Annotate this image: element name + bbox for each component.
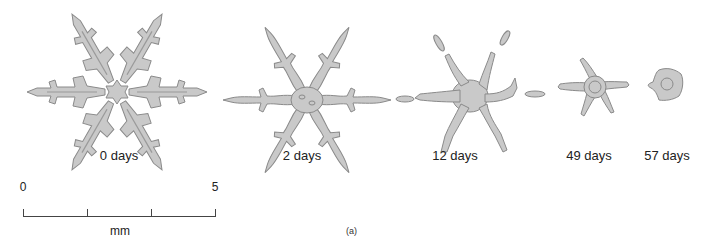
- scale-end-label: 5: [212, 180, 219, 194]
- crystal-57-days: [645, 66, 685, 102]
- rounding-snowflake-icon: [222, 40, 392, 160]
- snow-crystal-metamorphism-figure: 0 days 2 days: [0, 0, 709, 245]
- crystal-12-days: [395, 25, 555, 155]
- rounded-grain-arms-icon: [395, 25, 555, 155]
- crystal-49-days: [556, 56, 631, 118]
- crystal-2-days: [222, 40, 392, 160]
- scale-unit-label: mm: [110, 224, 130, 238]
- scale-line: [23, 216, 216, 217]
- stage-label-12-days: 12 days: [432, 148, 478, 163]
- stage-label-0-days: 0 days: [100, 148, 138, 163]
- scale-start-label: 0: [20, 180, 27, 194]
- stage-label-57-days: 57 days: [644, 148, 690, 163]
- panel-label: (a): [346, 226, 357, 236]
- stage-label-2-days: 2 days: [283, 148, 321, 163]
- scale-bar: 0 5 mm: [22, 180, 218, 228]
- rounded-grain-icon: [645, 66, 685, 102]
- stage-label-49-days: 49 days: [566, 148, 612, 163]
- star-grain-icon: [556, 56, 631, 118]
